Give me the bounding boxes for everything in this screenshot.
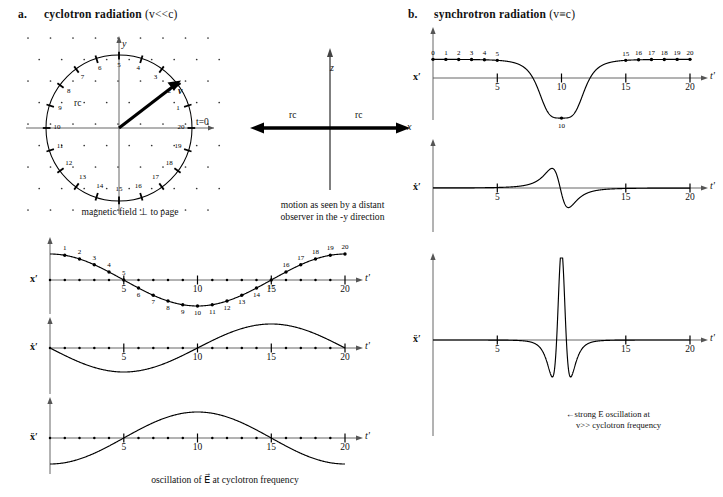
orbit-point-label: 6	[94, 64, 106, 72]
panel-b-title-paren: (v≡c)	[549, 8, 575, 20]
y-axis-label: ẍ′	[30, 431, 38, 442]
data-point	[637, 58, 640, 61]
data-point	[255, 286, 258, 289]
data-point-label: 4	[102, 261, 116, 269]
baseline-dot	[137, 279, 140, 282]
plot-a3-svg	[20, 400, 380, 475]
baseline-dot	[226, 279, 229, 282]
field-dot	[151, 145, 153, 147]
field-dot	[196, 188, 198, 190]
data-point-label: 4	[477, 49, 491, 57]
x-tick-label: 20	[678, 344, 702, 354]
data-point-label: 20	[338, 243, 352, 251]
data-point-label: 17	[294, 254, 308, 262]
field-dot	[95, 37, 97, 39]
plot-a3: 5101520ẍ′t'	[20, 400, 380, 475]
data-point-label: 10	[555, 122, 569, 130]
orbit-tick	[140, 193, 142, 200]
field-dot	[162, 123, 164, 125]
field-dot	[185, 80, 187, 82]
data-point	[152, 294, 155, 297]
data-point	[211, 303, 214, 306]
field-dot	[128, 102, 130, 104]
field-dot	[207, 166, 209, 168]
data-point-label: 3	[465, 49, 479, 57]
field-dot	[83, 102, 85, 104]
field-dot	[83, 59, 85, 61]
baseline-dot	[49, 279, 52, 282]
data-point	[457, 58, 460, 61]
x-tick-label: 10	[186, 284, 210, 294]
data-point-label: 5	[490, 50, 504, 58]
data-point-label: 17	[644, 49, 658, 57]
x-axis-arrow	[701, 75, 708, 80]
x-axis-arrow	[701, 337, 708, 342]
y-axis-label: ẋ′	[30, 341, 38, 352]
field-dot	[106, 102, 108, 104]
field-dot	[207, 37, 209, 39]
baseline-dot	[93, 347, 96, 350]
x-tick-label: 15	[614, 82, 638, 92]
plot-b3-svg	[405, 250, 720, 440]
data-point	[688, 58, 691, 61]
baseline-dot	[152, 347, 155, 350]
field-dot	[83, 145, 85, 147]
panel-a-bottom-caption: oscillation of E⃗ at cyclotron frequency	[110, 474, 340, 486]
x-tick-label: 15	[259, 442, 283, 452]
field-dot	[128, 59, 130, 61]
y-axis-label: x′	[413, 71, 421, 82]
field-dot	[27, 37, 29, 39]
x-tick-label: 5	[112, 352, 136, 362]
data-point	[329, 254, 332, 257]
plot-a1: 5101520x′t'12345678910111213141516171819…	[20, 240, 380, 315]
field-dot	[196, 102, 198, 104]
rc-right-label: rс	[355, 110, 362, 120]
field-dot	[50, 37, 52, 39]
baseline-dot	[137, 347, 140, 350]
data-point	[431, 58, 434, 61]
y-axis-label: ẍ′	[413, 333, 421, 344]
baseline-dot	[78, 347, 81, 350]
t0-label: t=0	[196, 117, 209, 127]
data-point	[663, 58, 666, 61]
data-point-label: 7	[146, 298, 160, 306]
field-dot	[50, 80, 52, 82]
panel-a-letter: a.	[18, 8, 44, 20]
field-dot	[185, 37, 187, 39]
data-point	[240, 294, 243, 297]
data-point-label: 18	[309, 248, 323, 256]
field-dot	[27, 80, 29, 82]
baseline-dot	[255, 347, 258, 350]
data-point	[122, 278, 125, 281]
field-dot	[140, 80, 142, 82]
x-axis-arrow	[356, 345, 363, 350]
baseline-dot	[285, 437, 288, 440]
orbit-point-label: 9	[54, 104, 66, 112]
data-point-label: 19	[670, 49, 684, 57]
plot-b1: 5101520x′t'01234510151617181920	[405, 28, 720, 123]
orbit-y-axis-label: y	[122, 38, 126, 49]
observer-z-axis-arrow	[327, 48, 333, 57]
data-curve	[433, 258, 690, 377]
magnetic-field-caption: magnetic field ⊥ to page	[40, 206, 220, 218]
field-dot	[27, 166, 29, 168]
velocity-label: v	[178, 85, 182, 96]
x-tick-label: 20	[333, 442, 357, 452]
data-point-label: 1	[58, 244, 72, 252]
x-axis-label: t'	[710, 332, 715, 343]
orbit-point-label: 5	[113, 61, 125, 69]
observer-x-axis-left-arrow	[250, 123, 264, 134]
observer-caption-line2: observer in the -y direction	[245, 211, 420, 223]
data-point	[284, 270, 287, 273]
x-tick-label: 15	[259, 352, 283, 362]
data-point-label: 5	[117, 269, 131, 277]
baseline-dot	[285, 347, 288, 350]
field-dot	[173, 188, 175, 190]
data-point-label: 19	[323, 244, 337, 252]
orbit-point-label: 7	[77, 73, 89, 81]
orbit-point-label: 15	[113, 185, 125, 193]
plot-a2: 5101520ẋ′t'	[20, 320, 380, 395]
data-point	[496, 59, 499, 62]
plot-b2: 51520ẋ′t'	[405, 140, 720, 235]
data-point-label: 15	[264, 283, 278, 291]
